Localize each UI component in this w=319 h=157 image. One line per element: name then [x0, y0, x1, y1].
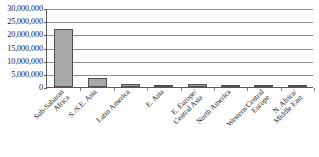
x-axis-category-label: Latin America	[96, 88, 133, 125]
x-axis-category-label: E. Asia	[144, 88, 165, 109]
y-axis-tick-labels: 05,000,00010,000,00015,000,00020,000,000…	[0, 0, 46, 90]
bars-group	[47, 9, 313, 88]
x-axis-category-label: S./S.E. Asia	[67, 88, 99, 120]
y-axis-tick-label: 15,000,000	[7, 44, 43, 52]
x-axis-category-label: Western/CentralEurope	[225, 88, 271, 134]
x-axis-category-labels: Sub-SaharanAfricaS./S.E. AsiaLatin Ameri…	[46, 88, 319, 157]
y-axis-tick-label: 10,000,000	[7, 58, 43, 66]
y-axis-tick-label: 25,000,000	[7, 18, 43, 26]
x-axis-category-label: N. Africa/Middle East	[267, 88, 305, 126]
y-axis-tick-label: 5,000,000	[11, 71, 43, 79]
y-axis-tick-label: 30,000,000	[7, 5, 43, 13]
bar	[54, 29, 73, 87]
y-axis-tick-label: 20,000,000	[7, 31, 43, 39]
plot-area	[46, 9, 313, 88]
bar	[88, 78, 107, 87]
bar-chart: 05,000,00010,000,00015,000,00020,000,000…	[0, 0, 319, 157]
x-axis-category-label: Sub-SaharanAfrica	[32, 88, 71, 127]
y-axis-tick-label: 0	[39, 84, 43, 92]
